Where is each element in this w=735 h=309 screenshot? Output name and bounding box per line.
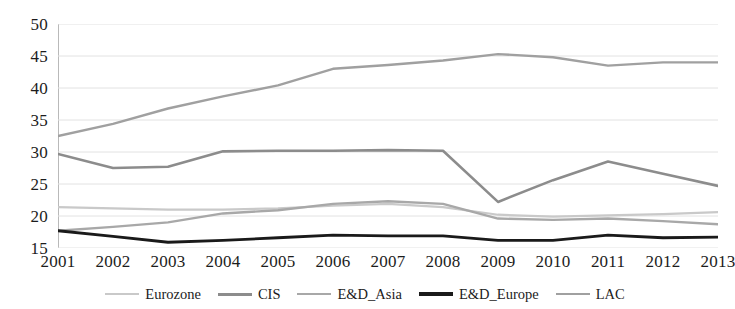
legend-swatch-icon [297,293,331,295]
x-tick-label: 2001 [41,252,76,272]
y-tick-label: 30 [31,144,48,161]
x-axis: 2001200220032004200520062007200820092010… [58,252,718,278]
y-tick-label: 40 [31,80,48,97]
x-tick-label: 2008 [426,252,461,272]
chart-canvas [58,24,718,248]
legend-swatch-icon [419,292,453,296]
x-tick-label: 2007 [371,252,406,272]
legend-label: LAC [596,287,625,302]
legend-swatch-icon [218,293,252,296]
x-tick-label: 2012 [646,252,681,272]
x-tick-label: 2010 [536,252,571,272]
x-tick-label: 2004 [206,252,241,272]
legend-item-lac[interactable]: LAC [556,287,625,302]
x-tick-label: 2005 [261,252,296,272]
x-tick-label: 2011 [591,252,625,272]
chart-legend: EurozoneCISE&D_AsiaE&D_EuropeLAC [0,282,730,306]
x-tick-label: 2009 [481,252,516,272]
series-line-eurozone [58,204,718,217]
x-tick-label: 2013 [701,252,735,272]
series-line-lac [58,54,718,136]
legend-item-e-d-asia[interactable]: E&D_Asia [297,287,401,302]
y-tick-label: 50 [31,16,48,33]
series-line-e-d-europe [58,231,718,243]
legend-label: Eurozone [145,287,201,302]
legend-label: E&D_Asia [337,287,401,302]
legend-item-eurozone[interactable]: Eurozone [105,287,201,302]
y-axis: 5045403530252015 [0,0,56,260]
x-tick-label: 2003 [151,252,186,272]
legend-swatch-icon [105,293,139,295]
legend-item-cis[interactable]: CIS [218,287,281,302]
y-tick-label: 20 [31,208,48,225]
legend-item-e-d-europe[interactable]: E&D_Europe [419,287,539,302]
legend-swatch-icon [556,293,590,295]
x-tick-label: 2002 [96,252,131,272]
y-tick-label: 35 [31,112,48,129]
x-tick-label: 2006 [316,252,351,272]
y-tick-label: 45 [31,48,48,65]
legend-label: E&D_Europe [459,287,539,302]
y-tick-label: 25 [31,176,48,193]
legend-label: CIS [258,287,281,302]
series-lines [58,54,718,242]
plot-area [58,24,718,248]
series-line-cis [58,150,718,202]
